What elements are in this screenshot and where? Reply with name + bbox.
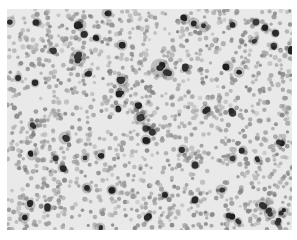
cell-field-canvas [7, 9, 292, 230]
micrograph-image [7, 9, 292, 230]
